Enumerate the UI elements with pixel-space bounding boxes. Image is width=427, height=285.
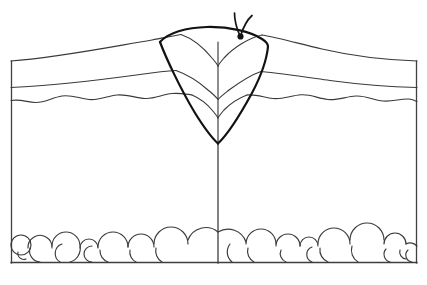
antenna-stroke-left [235,13,241,36]
clast-arc [18,252,26,259]
wedge-top-arc [160,27,268,47]
clast-arc [320,248,328,262]
diagram-canvas: Stratigraphic Cross-Section with Wedge S… [0,0,427,285]
wavy-contact-right-segment [247,95,417,102]
upper-contact-right-segment [262,35,417,61]
antenna-group [235,13,253,40]
clast-arc [100,250,108,262]
wedge-left-flank [160,42,218,144]
clast-arc [156,248,162,262]
wedge-chevron-3-right [218,95,247,118]
wedge-chevron-1-left [181,35,218,67]
middle-contact-right-segment [261,72,417,88]
upper-contact-left-segment [11,35,181,62]
clast-arc [351,246,358,262]
clast-arc [246,229,276,244]
wedge-outline [160,27,268,144]
clast-arc [318,228,350,244]
clast-arc [28,235,52,248]
clast-arc [218,229,246,242]
middle-contact-left-segment [11,71,176,88]
clast-arc [98,232,128,247]
clast-arc [384,233,406,244]
middle-contact-line [11,71,417,88]
clast-arc [406,250,412,262]
clast-arc [384,249,390,262]
clast-arc [248,248,254,262]
clast-arc [350,223,384,240]
clast-arc [307,247,312,262]
clast-arc [130,250,136,262]
cross-section-figure: Stratigraphic Cross-Section with Wedge S… [0,0,427,285]
clast-arc [84,246,92,262]
clast-arc [154,227,188,244]
clast-arc [400,250,406,259]
clast-arc [280,250,286,262]
clast-arc [276,234,300,246]
clast-arc [30,248,40,262]
clast-arc [406,243,417,246]
clast-arc [188,228,218,240]
clast-arc [55,244,62,262]
wedge-internal-chevrons [176,35,262,119]
wavy-contact-left-segment [11,93,192,102]
clast-layer [11,223,417,262]
wedge-right-flank [218,47,268,144]
upper-contact-line [11,35,417,62]
wedge-chevron-2-left [176,71,218,100]
wedge-chevron-1-right [218,35,262,66]
clast-arc [128,234,154,247]
clast-arc [300,237,318,246]
clast-arc [227,244,232,262]
